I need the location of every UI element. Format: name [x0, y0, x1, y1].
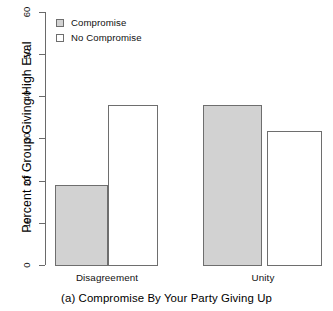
y-axis-tick-40 — [39, 96, 45, 97]
y-axis-title: Percent of Group Giving High Eval — [20, 25, 34, 250]
y-axis-label-60: 60 — [18, 6, 36, 18]
x-axis-label-disagreement: Disagreement — [52, 272, 162, 283]
bar-disagreement-no-compromise — [108, 105, 158, 266]
bar-unity-compromise — [203, 105, 262, 266]
bar-unity-no-compromise — [267, 131, 322, 266]
legend-label-no-compromise: No Compromise — [71, 32, 142, 43]
y-axis-line — [45, 12, 46, 265]
y-axis-tick-30 — [39, 138, 45, 139]
legend-item-no-compromise: No Compromise — [56, 31, 142, 44]
bar-disagreement-compromise — [55, 185, 108, 266]
legend-swatch-compromise-icon — [56, 19, 64, 27]
legend-label-compromise: Compromise — [71, 17, 126, 28]
y-axis-label-0: 0 — [18, 259, 36, 271]
y-axis-tick-0 — [39, 265, 45, 266]
x-axis-label-unity: Unity — [208, 272, 318, 283]
legend: Compromise No Compromise — [56, 16, 142, 46]
legend-swatch-no-compromise-icon — [56, 34, 64, 42]
y-axis-tick-20 — [39, 181, 45, 182]
legend-item-compromise: Compromise — [56, 16, 142, 29]
plot-area: 0 10 20 30 40 50 60 Percent of Group Giv… — [0, 0, 333, 311]
figure-caption: (a) Compromise By Your Party Giving Up — [0, 292, 333, 304]
y-axis-tick-10 — [39, 223, 45, 224]
y-axis-tick-60 — [39, 12, 45, 13]
y-axis-tick-50 — [39, 54, 45, 55]
bar-chart-figure: 0 10 20 30 40 50 60 Percent of Group Giv… — [0, 0, 333, 311]
